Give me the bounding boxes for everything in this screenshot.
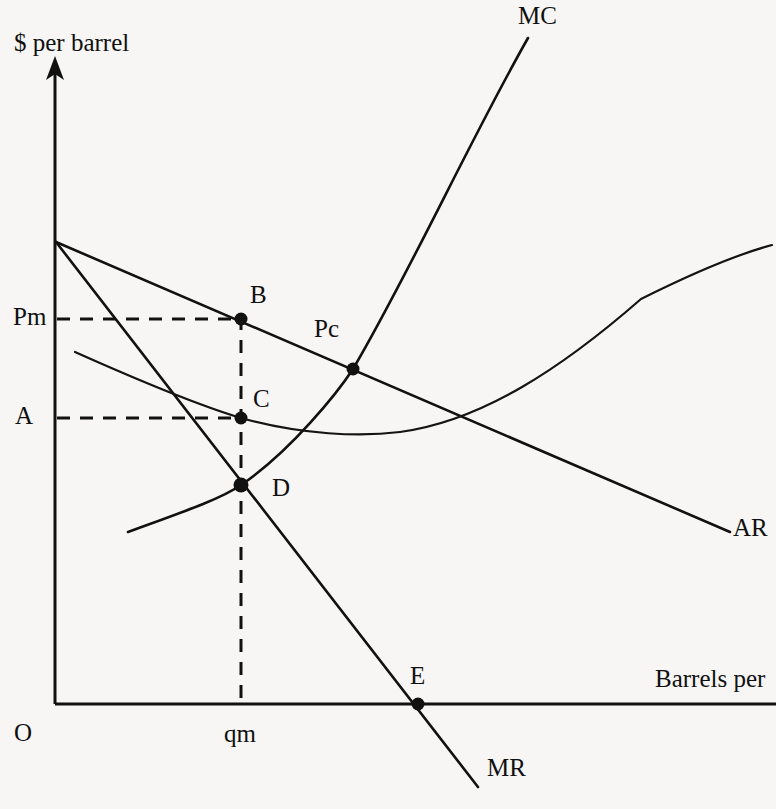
pc-point-label: Pc — [314, 315, 339, 342]
diagram-canvas: $ per barrel Barrels per O Pm A qm MC AR… — [0, 0, 776, 809]
quantity-tick-qm-label: qm — [224, 720, 257, 747]
labels-group: $ per barrel Barrels per O Pm A qm MC AR… — [13, 2, 768, 781]
point-pc-marker — [347, 363, 360, 376]
origin-label: O — [14, 719, 32, 746]
point-b-marker — [235, 313, 248, 326]
guides-group — [57, 317, 243, 704]
price-tick-pm-label: Pm — [13, 303, 47, 330]
axes-group — [46, 56, 776, 704]
points-group — [234, 313, 425, 711]
x-axis-label: Barrels per — [655, 665, 766, 692]
point-b-label: B — [250, 281, 267, 308]
mc-curve-label: MC — [518, 2, 557, 29]
point-c-marker — [235, 412, 248, 425]
economics-diagram-figure: $ per barrel Barrels per O Pm A qm MC AR… — [0, 0, 776, 809]
price-tick-a-label: A — [15, 402, 33, 429]
ac-curve — [75, 245, 772, 434]
point-d-marker — [234, 478, 249, 493]
point-d-label: D — [272, 474, 290, 501]
mr-curve-label: MR — [487, 754, 526, 781]
ar-curve-label: AR — [733, 514, 768, 541]
mc-curve — [128, 38, 528, 532]
y-axis-label: $ per barrel — [14, 29, 129, 56]
point-e-label: E — [410, 662, 425, 689]
point-e-marker — [412, 698, 425, 711]
point-c-label: C — [253, 385, 270, 412]
